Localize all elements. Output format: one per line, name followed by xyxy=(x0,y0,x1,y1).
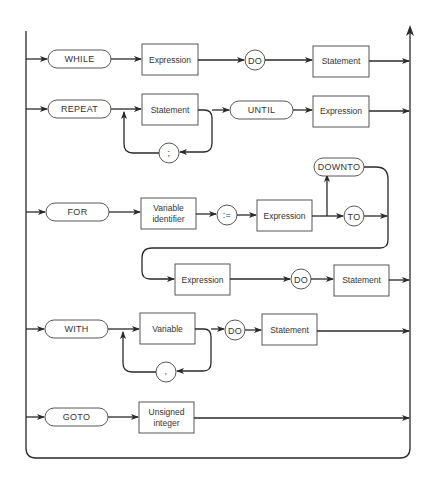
svg-text:Expression: Expression xyxy=(320,106,362,116)
svg-text:Variable: Variable xyxy=(152,324,183,334)
while-row: WHILE Expression DO Statement xyxy=(26,44,409,77)
repeat-row: REPEAT Statement ; UNTIL Expression xyxy=(26,94,409,163)
svg-text:Expression: Expression xyxy=(149,55,191,65)
svg-text:,: , xyxy=(165,366,168,376)
svg-text:integer: integer xyxy=(154,418,180,428)
goto-row: GOTO Unsigned integer xyxy=(26,402,409,433)
with-row: WITH Variable , DO Statement xyxy=(26,313,409,382)
svg-text:Statement: Statement xyxy=(270,325,309,335)
svg-text:UNTIL: UNTIL xyxy=(248,105,276,115)
svg-text:Statement: Statement xyxy=(151,105,190,115)
svg-text:Unsigned: Unsigned xyxy=(149,407,185,417)
left-rail xyxy=(26,28,410,458)
svg-text:DO: DO xyxy=(228,326,242,336)
svg-text::=: := xyxy=(223,210,231,220)
svg-text:DOWNTO: DOWNTO xyxy=(318,162,361,172)
svg-text:GOTO: GOTO xyxy=(63,412,91,422)
svg-text:TO: TO xyxy=(348,212,361,222)
svg-text:Expression: Expression xyxy=(263,211,305,221)
svg-text:Variable: Variable xyxy=(153,203,184,213)
svg-text:Statement: Statement xyxy=(342,275,381,285)
svg-text:FOR: FOR xyxy=(68,207,88,217)
svg-text:Statement: Statement xyxy=(322,56,361,66)
svg-text:Expression: Expression xyxy=(181,275,223,285)
for-row: FOR Variable identifier := Expression DO… xyxy=(26,158,409,296)
svg-text:;: ; xyxy=(168,148,171,158)
svg-text:REPEAT: REPEAT xyxy=(61,104,98,114)
svg-text:DO: DO xyxy=(294,275,308,285)
svg-text:WITH: WITH xyxy=(64,324,88,334)
svg-text:identifier: identifier xyxy=(152,214,184,224)
svg-text:WHILE: WHILE xyxy=(64,54,94,64)
syntax-diagram: WHILE Expression DO Statement REPEAT Sta… xyxy=(0,0,432,491)
svg-text:DO: DO xyxy=(248,56,262,66)
